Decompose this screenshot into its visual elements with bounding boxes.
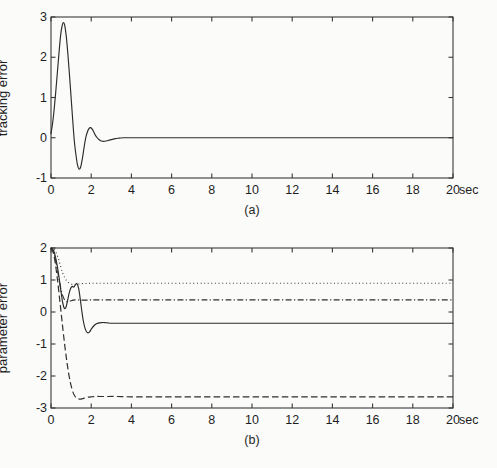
panel-caption-b: (b) — [244, 434, 259, 447]
x-tick-label: 8 — [208, 184, 215, 197]
y-tick-label: 3 — [17, 11, 47, 24]
x-axis-unit-a: sec — [459, 184, 478, 197]
x-tick-label: 0 — [48, 184, 55, 197]
x-tick-label: 14 — [325, 414, 339, 427]
x-tick-label: 0 — [48, 414, 55, 427]
x-tick-label: 2 — [88, 414, 95, 427]
y-tick-label: 2 — [17, 51, 47, 64]
data-series-line — [51, 248, 453, 285]
chart-panel-a: tracking error 02468101214161820-10123 s… — [0, 0, 497, 234]
x-tick-label: 20 — [446, 184, 460, 197]
y-tick-label: -2 — [17, 370, 47, 383]
x-tick-label: 6 — [168, 414, 175, 427]
y-tick-label: 0 — [17, 306, 47, 319]
x-axis-unit-b: sec — [459, 414, 478, 427]
y-tick-label: -1 — [17, 338, 47, 351]
y-axis-title-b: parameter error — [0, 283, 9, 373]
x-tick-label: 2 — [88, 184, 95, 197]
x-tick-label: 16 — [366, 184, 380, 197]
x-tick-label: 20 — [446, 414, 460, 427]
data-series-line — [51, 248, 453, 302]
x-tick-label: 6 — [168, 184, 175, 197]
y-tick-label: -3 — [17, 402, 47, 415]
panel-caption-a: (a) — [244, 204, 259, 217]
x-tick-label: 4 — [128, 414, 135, 427]
figure-container: tracking error 02468101214161820-10123 s… — [0, 0, 497, 468]
plot-area-a — [0, 0, 497, 234]
x-tick-label: 4 — [128, 184, 135, 197]
data-series-line — [51, 23, 453, 170]
x-tick-label: 10 — [245, 414, 259, 427]
y-tick-label: 2 — [17, 242, 47, 255]
plot-box — [51, 248, 453, 408]
y-tick-label: -1 — [17, 172, 47, 185]
y-tick-label: 1 — [17, 91, 47, 104]
x-tick-label: 8 — [208, 414, 215, 427]
x-tick-label: 18 — [406, 184, 420, 197]
x-tick-label: 18 — [406, 414, 420, 427]
x-tick-label: 10 — [245, 184, 259, 197]
x-tick-label: 16 — [366, 414, 380, 427]
y-axis-title-a: tracking error — [0, 59, 9, 136]
x-tick-label: 14 — [325, 184, 339, 197]
x-tick-label: 12 — [285, 184, 299, 197]
y-tick-label: 1 — [17, 274, 47, 287]
plot-box — [51, 17, 453, 178]
chart-panel-b: parameter error 02468101214161820-3-2-10… — [0, 234, 497, 468]
y-tick-label: 0 — [17, 132, 47, 145]
data-series-line — [51, 248, 453, 333]
x-tick-label: 12 — [285, 414, 299, 427]
